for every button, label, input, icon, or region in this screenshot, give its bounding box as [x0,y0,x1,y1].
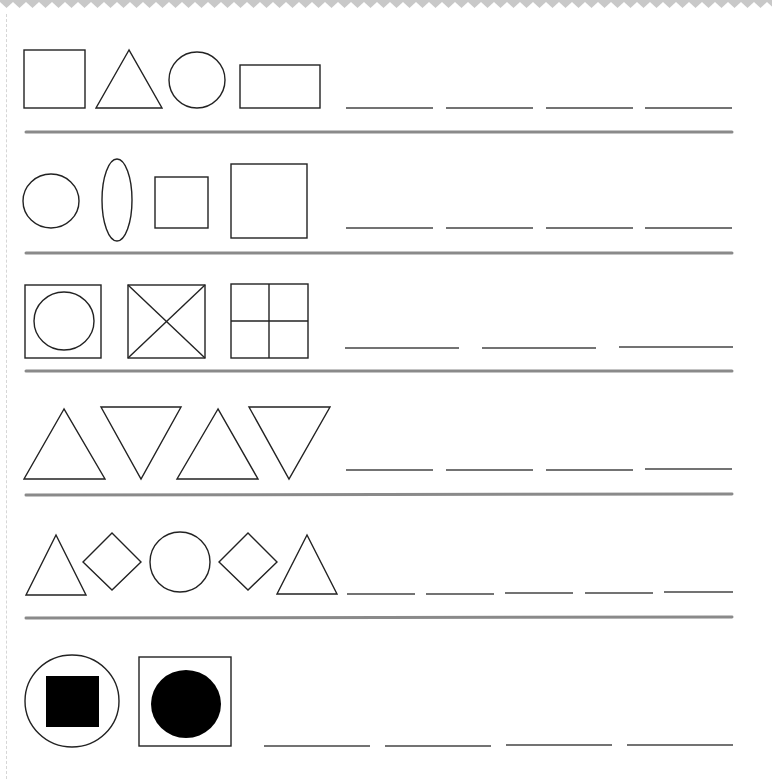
diamond-shape [219,533,277,590]
triangle-shape [277,535,337,594]
square-quartered-shape [231,284,308,358]
circle-shape [150,532,210,592]
circle-with-filled-square-shape [25,655,119,747]
answer-blanks [347,592,733,594]
square-with-x-shape [128,285,205,358]
small-square-shape [155,177,208,228]
row-5 [26,532,733,618]
answer-blanks [346,469,732,470]
triangle-shape [26,535,86,595]
triangle-down-shape [101,407,181,479]
pattern-shapes [24,50,320,108]
row-1 [24,50,732,132]
circle-shape [23,174,79,228]
triangle-down-shape [249,407,330,479]
row-divider [26,617,732,618]
diamond-shape [83,533,141,590]
large-square-shape [231,164,307,238]
row-3 [25,284,733,371]
triangle-shape [96,50,162,108]
answer-blanks [345,347,733,348]
row-divider [26,494,732,495]
ellipse-shape [102,159,132,241]
worksheet [0,0,772,779]
square-shape [24,50,85,108]
pattern-shapes [25,284,308,358]
row-4 [24,407,732,495]
circle-shape [169,52,225,108]
triangle-up-shape [24,409,105,479]
pattern-shapes [23,159,307,241]
answer-blanks [264,745,733,746]
rectangle-shape [240,65,320,108]
triangle-up-shape [177,409,258,479]
row-6 [25,655,733,747]
square-with-filled-circle-shape [139,657,231,746]
pattern-shapes [24,407,330,479]
pattern-shapes [26,532,337,595]
pattern-shapes [25,655,231,747]
square-with-circle-shape [25,285,101,358]
row-2 [23,159,732,253]
